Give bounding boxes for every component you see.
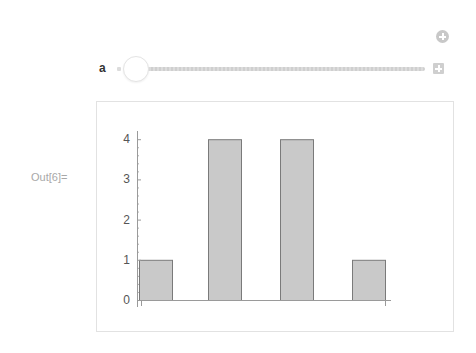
slider-track[interactable] [147,67,425,71]
slider-min-dot [117,67,121,71]
output-label: Out[6]= [31,171,67,183]
bar-1 [140,260,173,300]
bar-4 [353,260,386,300]
y-tick-label: 3 [123,172,130,186]
output-panel: 01234 [96,101,454,332]
y-tick-label: 2 [123,213,130,227]
bar-chart: 01234 [97,102,455,333]
bar-3 [281,140,314,301]
slider-variable-label: a [99,61,106,75]
chart-area: 01234 [123,131,391,307]
y-tick-label: 0 [123,293,130,307]
variable-slider[interactable] [117,56,429,82]
bar-2 [209,140,242,301]
add-circle-icon[interactable] [436,30,449,43]
y-tick-label: 4 [123,132,130,146]
plus-square-icon[interactable] [433,63,444,74]
slider-thumb[interactable] [123,56,149,82]
y-tick-label: 1 [123,253,130,267]
